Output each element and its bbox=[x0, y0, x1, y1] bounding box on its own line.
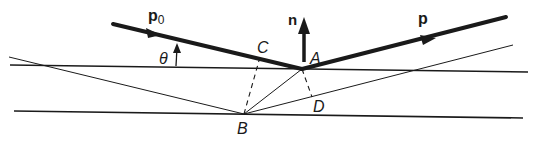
label-point-c: C bbox=[257, 39, 269, 56]
thin-reflected-ray bbox=[244, 45, 513, 114]
incident-ray-p0 bbox=[113, 24, 302, 69]
lower-surface-line bbox=[14, 111, 523, 118]
normal-arrowhead-icon bbox=[298, 17, 310, 34]
label-point-d: D bbox=[313, 98, 325, 115]
label-point-b: B bbox=[237, 120, 248, 137]
line-b-to-a bbox=[244, 69, 302, 114]
upper-surface-line bbox=[10, 65, 528, 72]
thin-incident-ray bbox=[9, 57, 244, 114]
label-theta: θ bbox=[159, 50, 168, 67]
label-p: p bbox=[418, 10, 428, 27]
dashed-line-a-to-d bbox=[302, 69, 312, 97]
dashed-line-b-to-c bbox=[244, 57, 260, 114]
label-point-a: A bbox=[309, 50, 321, 67]
theta-arrowhead-icon bbox=[173, 43, 181, 53]
label-p0: p0 bbox=[148, 7, 165, 27]
bragg-reflection-diagram: p0 n p θ A B C D bbox=[0, 0, 539, 142]
label-n: n bbox=[288, 11, 297, 28]
reflected-ray-p bbox=[302, 17, 506, 69]
